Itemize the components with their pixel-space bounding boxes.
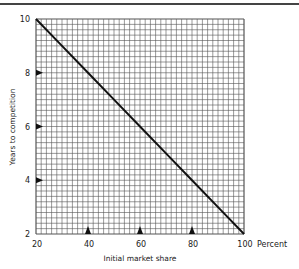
chart: 10 8 6 4 2 20 40 60 80 100 Percent Initi…: [0, 0, 299, 269]
x-marker-triangle-icon: [137, 226, 143, 234]
y-tick-label-8: 8: [25, 69, 30, 78]
x-tick-label-80: 80: [188, 240, 198, 249]
x-tick-label-60: 60: [136, 240, 146, 249]
y-tick-label-10: 10: [20, 15, 30, 24]
x-axis-title: Initial market share: [104, 254, 177, 263]
y-marker-triangle-icon: [36, 177, 43, 183]
x-unit-label: Percent: [257, 240, 287, 249]
y-tick-label-6: 6: [25, 123, 30, 132]
x-tick-label-100: 100: [237, 240, 252, 249]
x-tick-label-40: 40: [84, 240, 94, 249]
y-tick-label-4: 4: [25, 176, 30, 185]
y-tick-label-2: 2: [25, 230, 30, 239]
y-axis-title: Years to competition: [8, 88, 17, 166]
y-marker-triangle-icon: [36, 124, 43, 130]
x-tick-label-20: 20: [32, 240, 42, 249]
y-marker-triangle-icon: [36, 70, 43, 76]
x-marker-triangle-icon: [189, 226, 195, 234]
x-marker-triangle-icon: [85, 226, 91, 234]
